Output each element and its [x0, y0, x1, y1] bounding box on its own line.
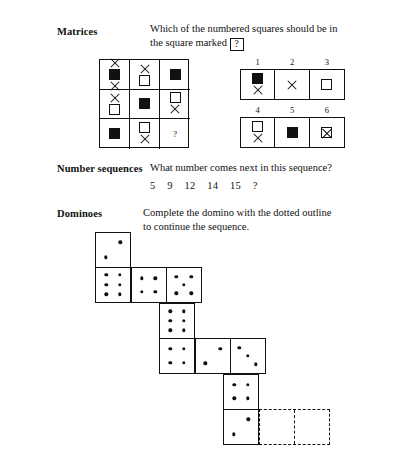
matrix-cell-r1c2-shapes: [130, 60, 159, 89]
question-box: ?: [230, 38, 244, 51]
matrix-cell-r3c2-shapes: [130, 119, 159, 149]
matrix-cell-r2c1-shapes: [100, 90, 129, 119]
open-square-icon: [170, 92, 181, 103]
matrix-option-3-shapes: [310, 70, 344, 99]
matrix-cell-r3c2[interactable]: [130, 119, 160, 149]
x-mark-icon: [252, 132, 264, 144]
x-mark-icon: [286, 79, 298, 91]
domino-tile[interactable]: [95, 232, 131, 303]
sequence-term: 12: [185, 180, 196, 191]
matrix-cell-r2c1[interactable]: [100, 90, 130, 120]
domino-pip: [182, 283, 185, 286]
domino-half: [224, 375, 258, 410]
domino-pip: [254, 362, 257, 365]
matrix-cell-r2c3-shapes: [160, 90, 190, 119]
matrix-option-1-shapes: [241, 70, 274, 99]
matrix-option-6-number: 6: [325, 105, 329, 115]
matrix-option-5-shapes: [275, 118, 308, 147]
sequence-term: 5: [150, 180, 155, 191]
domino-pip: [154, 276, 157, 279]
number-sequence-values: 5 9 12 14 15 ?: [150, 180, 267, 191]
domino-pip: [246, 397, 249, 400]
domino-pip: [182, 319, 185, 322]
domino-pip: [104, 293, 107, 296]
domino-pip: [118, 283, 121, 286]
domino-pip: [182, 310, 185, 313]
matrix-cell-r1c2[interactable]: [130, 60, 160, 90]
matrix-cell-r1c3-shapes: [160, 60, 190, 89]
domino-pip: [118, 293, 121, 296]
matrix-grid: ?: [99, 59, 189, 148]
x-mark-icon: [139, 133, 151, 145]
shape-stack: [252, 73, 264, 96]
shape-stack: [252, 121, 264, 144]
matrix-option-5[interactable]: 5: [275, 118, 309, 147]
filled-square-icon: [109, 69, 120, 80]
matrix-option-3[interactable]: 3: [310, 70, 344, 99]
question-mark-label: ?: [173, 129, 177, 139]
matrices-prompt-line-1: Which of the numbered squares should be …: [150, 22, 368, 36]
domino-pip: [168, 319, 171, 322]
matrix-cell-r3c3-missing[interactable]: ?: [160, 119, 190, 149]
domino-pip: [168, 361, 171, 364]
matrix-option-1-number: 1: [256, 57, 260, 67]
filled-square-icon: [287, 127, 298, 138]
matrix-cell-r3c3-shapes: ?: [160, 119, 190, 149]
matrix-option-4[interactable]: 4: [241, 118, 275, 147]
matrix-cell-r2c2[interactable]: [130, 90, 160, 120]
shape-stack: [169, 92, 181, 115]
open-square-icon: [139, 122, 150, 133]
domino-pip: [140, 276, 143, 279]
matrix-option-2[interactable]: 2: [275, 70, 309, 99]
domino-pip: [232, 397, 235, 400]
domino-half: [132, 268, 167, 302]
open-square-icon: [109, 104, 120, 115]
domino-pip: [104, 255, 107, 258]
open-square-icon: [321, 79, 332, 90]
matrix-cell-r1c3[interactable]: [160, 60, 190, 90]
matrix-option-5-number: 5: [290, 105, 294, 115]
x-mark-icon: [252, 84, 264, 96]
domino-tile[interactable]: [159, 303, 195, 374]
matrix-options-row-1: 1 2 3: [240, 69, 345, 100]
matrix-option-4-shapes: [241, 118, 274, 147]
domino-half: [96, 268, 130, 303]
dominoes-prompt-line-1: Complete the domino with the dotted outl…: [143, 206, 368, 220]
matrix-cell-r1c1[interactable]: [100, 60, 130, 90]
domino-tile-blank[interactable]: [259, 409, 330, 445]
domino-pip: [119, 241, 122, 244]
matrices-prompt-line-2: the square marked ?: [150, 36, 368, 50]
matrix-cell-r3c1[interactable]: [100, 119, 130, 149]
x-mark-icon: [139, 63, 151, 75]
matrix-cell-r2c3[interactable]: [160, 90, 190, 120]
domino-pip: [174, 291, 177, 294]
x-mark-icon: [169, 103, 181, 115]
number-sequences-prompt: What number comes next in this sequence?: [150, 161, 368, 175]
matrix-option-4-number: 4: [256, 105, 260, 115]
matrix-option-6[interactable]: 6: [310, 118, 344, 147]
matrix-option-2-number: 2: [290, 57, 294, 67]
domino-pip: [168, 347, 171, 350]
domino-tile[interactable]: [223, 374, 259, 445]
matrix-option-1[interactable]: 1: [241, 70, 275, 99]
filled-square-icon: [109, 128, 120, 139]
domino-half: [196, 339, 231, 373]
domino-tile[interactable]: [195, 338, 266, 374]
domino-pip: [247, 417, 250, 420]
domino-pip: [182, 347, 185, 350]
domino-half: [260, 410, 295, 444]
matrix-option-2-shapes: [275, 70, 308, 99]
filled-square-icon: [170, 69, 181, 80]
domino-pip: [190, 291, 193, 294]
matrix-options-row-2: 4 5 6: [240, 117, 345, 148]
filled-square-icon: [139, 98, 150, 109]
domino-pip: [204, 362, 207, 365]
domino-pip: [246, 383, 249, 386]
sequence-term: 14: [207, 180, 218, 191]
domino-tile[interactable]: [131, 267, 202, 303]
shape-stack: [109, 92, 121, 115]
domino-half: [224, 410, 258, 445]
section-label-dominoes: Dominoes: [57, 208, 102, 219]
shape-stack: [139, 122, 151, 145]
domino-pip: [168, 310, 171, 313]
